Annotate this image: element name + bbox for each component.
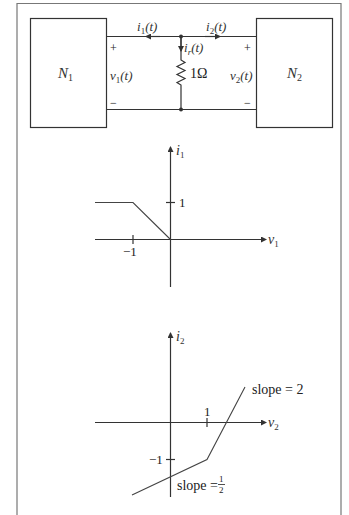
circuit: N1 N2 1Ω i1(t) i2(t) ir(t) + v1(t) − + v… — [31, 19, 333, 128]
graph-1-x-label: v1 — [268, 232, 279, 249]
graph-1-curve — [95, 203, 171, 240]
voltage-2-label: v2(t) — [230, 68, 253, 85]
resistor-value: 1Ω — [190, 66, 207, 81]
slope-lower-label: slope = — [177, 478, 218, 493]
v2-minus: − — [244, 96, 251, 110]
v1-plus: + — [110, 41, 117, 55]
network-1-label: N1 — [57, 65, 73, 83]
fraction-denominator: 2 — [219, 485, 224, 495]
v2-plus: + — [244, 41, 251, 55]
v1-minus: − — [110, 96, 117, 110]
slope-upper-label: slope = 2 — [252, 382, 303, 397]
graph-2-y-tick-label: −1 — [149, 452, 163, 467]
graph-2-x-tick-label: 1 — [204, 404, 211, 419]
graph-2-x-label: v2 — [268, 415, 279, 432]
graph-1-y-label: i1 — [176, 143, 184, 160]
voltage-1-label: v1(t) — [110, 68, 133, 85]
graph-1: i1 v1 −1 1 — [95, 143, 279, 287]
slope-lower-fraction: 1 2 — [218, 474, 225, 495]
graph-2: i2 v2 1 −1 slope = 2 slope = 1 2 — [95, 329, 303, 497]
figure: N1 N2 1Ω i1(t) i2(t) ir(t) + v1(t) − + v… — [0, 0, 349, 515]
current-1-label: i1(t) — [137, 19, 157, 36]
network-2-label: N2 — [286, 65, 302, 83]
graph-2-y-label: i2 — [176, 329, 184, 346]
current-r-label: ir(t) — [184, 40, 203, 57]
graph-1-y-tick-label: 1 — [179, 195, 186, 210]
fraction-numerator: 1 — [219, 474, 224, 484]
current-2-label: i2(t) — [206, 19, 226, 36]
graph-1-x-tick-label: −1 — [123, 244, 137, 259]
